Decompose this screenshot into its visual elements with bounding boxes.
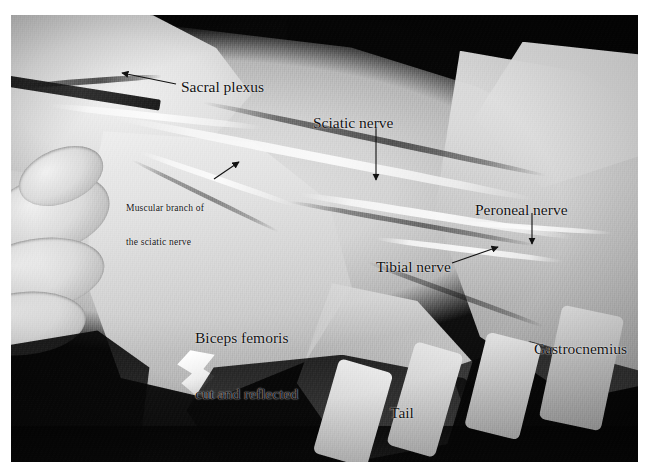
label-muscular-branch-line2: the sciatic nerve xyxy=(126,237,204,248)
label-gastrocnemius[interactable]: Gastrocnemius xyxy=(534,340,627,357)
dissection-photograph xyxy=(11,15,638,462)
label-muscular-branch[interactable]: Muscular branch of the sciatic nerve xyxy=(126,180,204,271)
label-peroneal-nerve[interactable]: Peroneal nerve xyxy=(475,201,568,218)
label-sciatic-nerve[interactable]: Sciatic nerve xyxy=(313,114,393,131)
label-tibial-nerve[interactable]: Tibial nerve xyxy=(376,258,451,275)
label-biceps-femoris[interactable]: Biceps femoris cut and reflected xyxy=(195,292,298,441)
label-sacral-plexus[interactable]: Sacral plexus xyxy=(181,78,264,95)
label-biceps-femoris-line1: Biceps femoris xyxy=(195,329,298,348)
label-muscular-branch-line1: Muscular branch of xyxy=(126,203,204,214)
figure-page: Sacral plexus Muscular branch of the sci… xyxy=(0,0,649,472)
label-tail[interactable]: Tail xyxy=(390,404,414,421)
label-biceps-femoris-line2: cut and reflected xyxy=(195,385,298,404)
